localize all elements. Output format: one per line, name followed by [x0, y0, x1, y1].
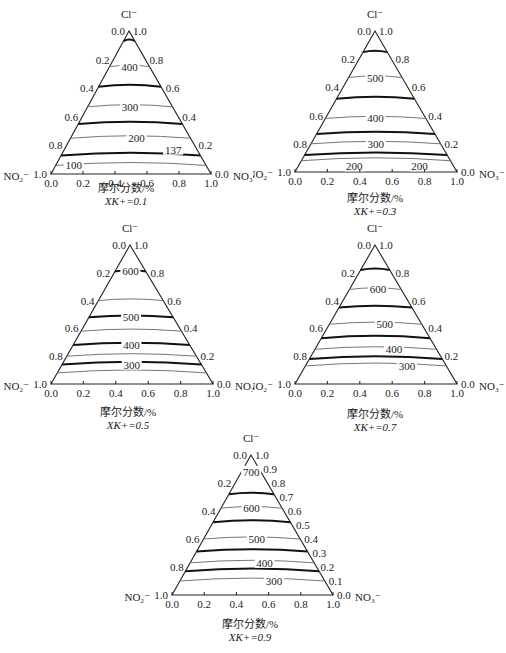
left-tick-label: 0.6	[65, 322, 79, 334]
apex-label-cl: Cl⁻	[367, 222, 383, 234]
apex-label-no3: NO₃⁻	[479, 380, 505, 392]
contour-label: 500	[377, 318, 394, 330]
bottom-tick-label: 0.2	[321, 175, 335, 187]
left-tick-label: 0.4	[80, 82, 94, 94]
contour-line	[185, 569, 319, 572]
left-tick-label: 1.0	[277, 378, 291, 390]
left-tick-label: 0.4	[325, 295, 339, 307]
right-tick-label: 0.6	[166, 82, 180, 94]
bottom-tick-label: 0.2	[197, 598, 211, 610]
right-tick-label: 0.4	[184, 322, 198, 334]
bottom-tick-label: 0.6	[385, 175, 399, 187]
contour-line	[309, 356, 442, 359]
ternary-svg: 5004003002002000.00.20.40.60.81.00.00.20…	[253, 0, 506, 220]
triangle-frame	[295, 31, 457, 172]
contour-label: 300	[368, 138, 385, 150]
right-tick-label: 0.6	[412, 295, 426, 307]
x-axis-label: 摩尔分数/%	[325, 408, 425, 421]
right-tick-label: 0.2	[445, 350, 459, 362]
apex-label-no3: NO₃⁻	[235, 380, 253, 392]
apex-label-no3: NO₃⁻	[479, 168, 505, 180]
contour-line	[124, 40, 135, 42]
contour-line	[317, 132, 435, 134]
bottom-tick-label: 0.6	[385, 387, 399, 399]
right-tick-label: 1.0	[134, 239, 148, 251]
right-tick-label: 1.0	[379, 25, 393, 37]
bottom-tick-label: 0.8	[174, 387, 188, 399]
right-tick-label: 0.0	[215, 168, 229, 180]
x-axis-label: 摩尔分数/%	[76, 182, 176, 195]
left-tick-label: 1.0	[277, 166, 291, 178]
contour-label: 400	[386, 343, 403, 355]
contour-line	[363, 51, 387, 53]
ternary-plot-xk-0.7: 6005004003000.00.20.40.60.81.00.00.20.40…	[253, 220, 506, 440]
left-tick-label: 0.2	[96, 267, 110, 279]
contour-line	[337, 97, 415, 99]
left-tick-label: 0.6	[186, 533, 200, 545]
left-tick-label: 1.0	[33, 378, 47, 390]
right-tick-label: 0.8	[151, 267, 165, 279]
right-tick-label: 0.6	[288, 505, 302, 517]
left-tick-label: 0.4	[81, 295, 95, 307]
right-tick-label: 1.0	[133, 25, 147, 37]
contour-label: 200	[411, 160, 428, 172]
contour-line	[361, 269, 390, 271]
bottom-tick-label: 0.4	[353, 175, 367, 187]
right-tick-label: 0.6	[167, 295, 181, 307]
condition-label: XK+=0.3	[325, 205, 425, 218]
caption-xk-0.3: 摩尔分数/% XK+=0.3	[325, 192, 425, 218]
bottom-tick-label: 0.6	[141, 387, 155, 399]
contour-line	[78, 122, 182, 124]
bottom-tick-label: 0.4	[353, 387, 367, 399]
contour-line	[81, 329, 181, 331]
left-tick-label: 0.0	[357, 25, 371, 37]
right-tick-label: 0.0	[217, 378, 231, 390]
ternary-plot-xk-0.3: 5004003002002000.00.20.40.60.81.00.00.20…	[253, 0, 506, 220]
caption-xk-0.9: 摩尔分数/% XK+=0.9	[200, 618, 300, 644]
right-tick-label: 0.7	[280, 491, 294, 503]
contour-line	[229, 493, 274, 495]
bottom-tick-label: 0.2	[77, 387, 91, 399]
x-axis-label: 摩尔分数/%	[200, 618, 300, 631]
contour-label: 300	[399, 360, 416, 372]
contour-label: 400	[256, 557, 273, 569]
left-tick-label: 0.0	[357, 239, 371, 251]
apex-label-no2: NO₂⁻	[3, 380, 29, 392]
contour-line	[301, 158, 450, 161]
contour-label: 400	[123, 339, 140, 351]
contour-label: 600	[370, 283, 387, 295]
apex-label-no2: NO₂⁻	[124, 591, 150, 603]
right-tick-label: 0.5	[296, 519, 310, 531]
right-tick-label: 0.4	[182, 111, 196, 123]
apex-label-no2: NO₂⁻	[253, 168, 273, 180]
left-tick-label: 0.8	[293, 350, 307, 362]
left-tick-label: 0.0	[112, 239, 126, 251]
contour-label: 400	[367, 112, 384, 124]
contour-line	[213, 520, 290, 522]
contour-line	[190, 560, 314, 563]
caption-xk-0.7: 摩尔分数/% XK+=0.7	[325, 408, 425, 434]
bottom-tick-label: 0.8	[418, 175, 432, 187]
left-tick-label: 1.0	[154, 589, 168, 601]
contour-label: 100	[65, 159, 82, 171]
right-tick-label: 0.0	[337, 589, 351, 601]
right-tick-label: 0.3	[312, 547, 326, 559]
caption-xk-0.5: 摩尔分数/% XK+=0.5	[78, 406, 178, 432]
right-tick-label: 1.0	[255, 449, 269, 461]
left-tick-label: 0.6	[64, 111, 78, 123]
contour-line	[339, 306, 412, 308]
right-tick-label: 0.2	[200, 350, 214, 362]
contour-line	[315, 347, 437, 350]
apex-label-cl: Cl⁻	[243, 432, 259, 444]
contour-label: 500	[367, 72, 384, 84]
contour-label: 200	[128, 132, 145, 144]
contour-label: 400	[121, 61, 138, 73]
right-tick-label: 0.4	[428, 322, 442, 334]
bottom-tick-label: 0.4	[230, 598, 244, 610]
condition-label: XK+=0.1	[76, 195, 176, 208]
caption-xk-0.1: 摩尔分数/% XK+=0.1	[76, 182, 176, 208]
contour-label: 300	[266, 575, 283, 587]
right-tick-label: 0.2	[321, 561, 335, 573]
apex-label-cl: Cl⁻	[121, 8, 137, 20]
contour-label: 300	[122, 101, 139, 113]
